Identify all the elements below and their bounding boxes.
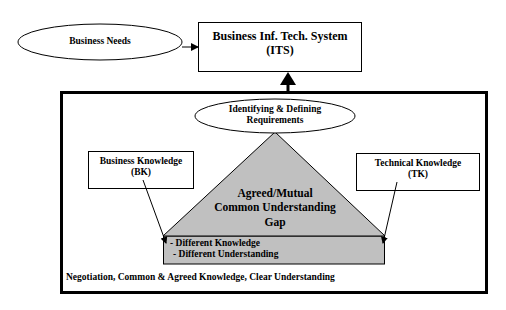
triangle-label-line2: Common Understanding: [175, 200, 375, 214]
tk-label-line2: (TK): [356, 169, 480, 180]
gap-list-item-1: - Different Knowledge: [170, 238, 278, 249]
bk-label: Business Knowledge (BK): [88, 156, 194, 178]
bk-label-line1: Business Knowledge: [88, 156, 194, 167]
bk-label-line2: (BK): [88, 167, 194, 178]
requirements-label: Identifying & Defining Requirements: [195, 104, 355, 126]
requirements-label-line1: Identifying & Defining: [195, 104, 355, 115]
its-label: Business Inf. Tech. System (ITS): [198, 30, 362, 58]
triangle-label-line1: Agreed/Mutual: [175, 186, 375, 200]
tk-label: Technical Knowledge (TK): [356, 158, 480, 180]
gap-list-item-2: - Different Understanding: [170, 249, 278, 260]
footer-label: Negotiation, Common & Agreed Knowledge, …: [66, 272, 335, 283]
triangle-label: Agreed/Mutual Common Understanding Gap: [175, 186, 375, 229]
business-needs-label: Business Needs: [18, 36, 182, 47]
triangle-label-line3: Gap: [175, 215, 375, 229]
its-label-line1: Business Inf. Tech. System: [198, 30, 362, 44]
tk-label-line1: Technical Knowledge: [356, 158, 480, 169]
gap-list: - Different Knowledge - Different Unders…: [170, 238, 278, 261]
its-label-line2: (ITS): [198, 44, 362, 58]
requirements-label-line2: Requirements: [195, 115, 355, 126]
up-arrow-head: [280, 72, 296, 85]
